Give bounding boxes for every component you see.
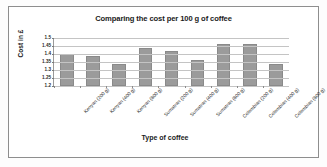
gridline — [54, 38, 289, 39]
bar — [243, 44, 257, 86]
y-tick-label: 1.3 — [45, 68, 51, 73]
x-axis-tick-labels: Kenyan (200 g)Kenyan (400 g)Kenyan (800 … — [53, 87, 288, 133]
y-tick-label: 1.25 — [42, 76, 51, 81]
y-tick-mark — [52, 46, 54, 47]
bar — [269, 64, 283, 86]
y-axis-tick-labels: 1.21.251.31.351.41.451.5 — [36, 38, 51, 86]
y-tick-mark — [52, 70, 54, 71]
x-tick-label: Kenyan (800 g) — [135, 87, 162, 114]
gridline — [54, 54, 289, 55]
y-tick-mark — [52, 62, 54, 63]
y-tick-label: 1.4 — [45, 52, 51, 57]
y-tick-label: 1.45 — [42, 44, 51, 49]
chart-title: Comparing the cost per 100 g of coffee — [0, 14, 327, 23]
plot-area — [53, 38, 289, 87]
x-tick-label: Kenyan (200 g) — [83, 87, 110, 114]
y-axis-title: Cost in £ — [17, 18, 24, 70]
y-tick-mark — [52, 38, 54, 39]
bar — [165, 51, 179, 86]
y-tick-mark — [52, 78, 54, 79]
bar — [191, 60, 205, 86]
x-tick-label: Kenyan (400 g) — [109, 87, 136, 114]
gridline — [54, 46, 289, 47]
y-tick-label: 1.5 — [45, 36, 51, 41]
x-tick-label: Sumatran (800 g) — [215, 87, 245, 117]
gridline — [54, 62, 289, 63]
chart-figure: Comparing the cost per 100 g of coffee C… — [0, 0, 327, 167]
gridline — [54, 70, 289, 71]
gridline — [54, 78, 289, 79]
bar — [217, 44, 231, 86]
y-tick-mark — [52, 54, 54, 55]
bar — [112, 64, 126, 86]
y-tick-label: 1.2 — [45, 84, 51, 89]
x-axis-title: Type of coffee — [40, 134, 290, 141]
y-tick-label: 1.35 — [42, 60, 51, 65]
